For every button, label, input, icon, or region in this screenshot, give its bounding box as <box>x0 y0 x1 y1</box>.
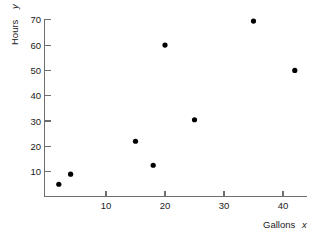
data-points-layer <box>56 18 297 186</box>
y-axis-title: Hours y <box>9 3 20 45</box>
x-axis-title: Gallons x <box>263 219 308 230</box>
data-point <box>68 172 73 177</box>
data-point <box>151 163 156 168</box>
x-axis-title-variable: x <box>301 219 308 230</box>
y-axis-title-variable: y <box>9 3 20 10</box>
y-axis-tick-labels: 70 60 50 40 30 20 10 <box>30 14 41 177</box>
x-axis-tick-labels: 10 20 30 40 <box>101 200 289 211</box>
x-tick-label: 40 <box>278 200 289 211</box>
y-tick-label: 40 <box>30 90 41 101</box>
scatter-plot-figure: 70 60 50 40 30 20 10 10 20 30 40 Hours y <box>0 0 318 237</box>
x-axis-ticks <box>106 191 283 197</box>
x-tick-label: 30 <box>219 200 230 211</box>
x-tick-label: 10 <box>101 200 112 211</box>
y-tick-label: 30 <box>30 116 41 127</box>
data-point <box>133 139 138 144</box>
y-tick-label: 10 <box>30 166 41 177</box>
x-tick-label: 20 <box>160 200 171 211</box>
y-tick-label: 20 <box>30 141 41 152</box>
y-tick-label: 50 <box>30 65 41 76</box>
data-point <box>56 182 61 187</box>
y-tick-label: 70 <box>30 14 41 25</box>
data-point <box>192 117 197 122</box>
data-point <box>251 18 256 23</box>
y-axis-ticks <box>45 20 51 172</box>
y-axis-title-name: Hours <box>9 19 20 45</box>
x-axis-title-name: Gallons <box>263 219 295 230</box>
data-point <box>292 68 297 73</box>
y-tick-label: 60 <box>30 40 41 51</box>
plot-canvas: 70 60 50 40 30 20 10 10 20 30 40 Hours y <box>0 0 318 237</box>
data-point <box>162 43 167 48</box>
